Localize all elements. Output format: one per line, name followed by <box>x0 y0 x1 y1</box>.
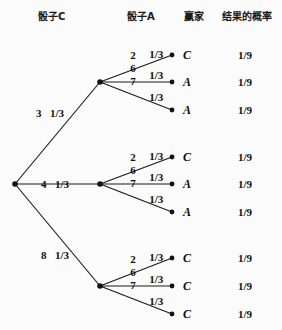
leaf-node-2-1 <box>170 155 175 160</box>
winner-3-3: C <box>183 308 191 320</box>
die-a-prob-1-1: 1/3 <box>149 49 163 60</box>
leaf-node-3-1 <box>170 256 175 261</box>
branch-line-level1-1 <box>15 82 100 184</box>
die-a-value-2-1: 2 <box>130 152 136 163</box>
die-c-value-3: 8 <box>41 250 47 261</box>
die-a-value-1-1: 2 <box>130 50 136 61</box>
die-c-prob-3: 1/3 <box>55 250 69 261</box>
probability-tree-figure: 骰子C骰子A赢家结果的概率31/321/3C1/961/3A1/971/3A1/… <box>0 0 282 330</box>
die-c-value-2: 4 <box>41 179 47 190</box>
winner-2-1: C <box>183 151 191 163</box>
die-a-prob-2-3: 1/3 <box>149 194 163 205</box>
column-header-3: 赢家 <box>184 12 204 22</box>
result-prob-2-1: 1/9 <box>238 152 252 163</box>
result-prob-3-2: 1/9 <box>238 281 252 292</box>
inner-node-2 <box>97 181 103 187</box>
die-c-prob-2: 1/3 <box>55 179 69 190</box>
leaf-node-1-1 <box>170 53 175 58</box>
result-prob-1-2: 1/9 <box>238 77 252 88</box>
branch-line-level1-3 <box>15 184 100 286</box>
result-prob-1-3: 1/9 <box>238 105 252 116</box>
leaf-node-2-3 <box>170 210 175 215</box>
die-a-prob-1-2: 1/3 <box>149 70 163 81</box>
die-c-prob-1: 1/3 <box>50 108 64 119</box>
column-header-2: 骰子A <box>127 12 155 22</box>
root-node <box>12 181 18 187</box>
inner-node-1 <box>97 79 103 85</box>
die-a-prob-2-2: 1/3 <box>149 172 163 183</box>
column-header-4: 结果的概率 <box>222 12 272 22</box>
die-a-value-1-2: 6 <box>130 63 136 74</box>
result-prob-2-3: 1/9 <box>238 207 252 218</box>
winner-2-3: A <box>183 206 191 218</box>
die-a-value-2-3: 7 <box>130 178 136 189</box>
winner-3-2: C <box>183 280 191 292</box>
winner-1-2: A <box>183 76 191 88</box>
result-prob-2-2: 1/9 <box>238 179 252 190</box>
die-a-prob-2-1: 1/3 <box>149 151 163 162</box>
die-a-prob-3-2: 1/3 <box>149 274 163 285</box>
column-header-1: 骰子C <box>38 12 65 22</box>
die-a-value-2-2: 6 <box>130 165 136 176</box>
winner-1-3: A <box>183 104 191 116</box>
die-a-value-3-1: 2 <box>130 254 136 265</box>
winner-3-1: C <box>183 252 191 264</box>
die-a-value-3-2: 6 <box>130 267 136 278</box>
leaf-node-3-2 <box>170 284 175 289</box>
result-prob-3-1: 1/9 <box>238 253 252 264</box>
winner-2-2: A <box>183 178 191 190</box>
die-a-prob-3-1: 1/3 <box>149 252 163 263</box>
result-prob-3-3: 1/9 <box>238 309 252 320</box>
inner-node-3 <box>97 283 103 289</box>
winner-1-1: C <box>183 49 191 61</box>
leaf-node-1-2 <box>170 80 175 85</box>
die-a-prob-3-3: 1/3 <box>149 296 163 307</box>
leaf-node-3-3 <box>170 312 175 317</box>
die-c-value-1: 3 <box>36 108 42 119</box>
die-a-prob-1-3: 1/3 <box>149 92 163 103</box>
die-a-value-1-3: 7 <box>130 76 136 87</box>
leaf-node-2-2 <box>170 182 175 187</box>
result-prob-1-1: 1/9 <box>238 50 252 61</box>
leaf-node-1-3 <box>170 108 175 113</box>
die-a-value-3-3: 7 <box>130 280 136 291</box>
